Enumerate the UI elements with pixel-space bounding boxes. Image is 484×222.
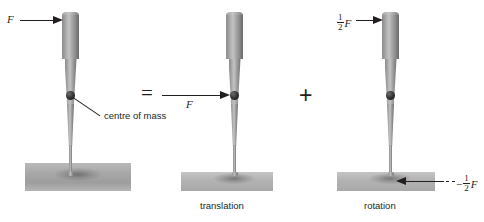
centre-of-mass-label: centre of mass — [104, 110, 166, 121]
force-label-middle: F — [186, 98, 193, 110]
force-symbol: F — [471, 178, 478, 190]
force-arrow-right-bottom-head — [396, 177, 406, 185]
force-arrow-right-bottom-dash — [446, 181, 455, 182]
force-arrow-right-top-head — [373, 16, 383, 24]
force-label-left: F — [7, 13, 14, 25]
force-arrow-right-bottom-line — [404, 181, 444, 182]
fraction-one-half-bottom: 1 2 — [463, 174, 470, 193]
plus-operator: + — [299, 84, 312, 107]
force-symbol: F — [345, 17, 352, 29]
fraction-one-half-top: 1 2 — [337, 13, 344, 32]
fraction-denominator: 2 — [337, 22, 344, 32]
fraction-numerator: 1 — [337, 13, 344, 22]
centre-of-mass-dot-right — [386, 91, 395, 100]
physics-figure-force-decomposition: F centre of mass = F translation + 1 — [0, 0, 484, 222]
force-arrow-middle-line — [162, 95, 222, 96]
centre-of-mass-leader-line — [72, 97, 100, 116]
force-arrow-middle-head — [220, 91, 230, 99]
force-label-right-bottom: − 1 2 F — [456, 174, 477, 193]
caption-translation: translation — [200, 200, 244, 211]
force-arrow-left-head — [53, 16, 63, 24]
contact-shadow-left — [55, 168, 101, 181]
force-label-right-top: 1 2 F — [336, 13, 351, 32]
fraction-numerator: 1 — [463, 174, 470, 183]
caption-rotation: rotation — [364, 200, 396, 211]
force-label-right-bottom-sign: − — [456, 178, 462, 190]
fraction-denominator: 2 — [463, 183, 470, 193]
force-arrow-left-line — [20, 20, 54, 21]
equals-operator: = — [141, 83, 153, 104]
centre-of-mass-dot-middle — [230, 91, 239, 100]
